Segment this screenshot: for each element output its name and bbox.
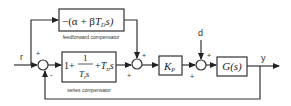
r-label: r [20, 52, 23, 62]
series-one-plus: 1+ [64, 60, 75, 71]
summing-junction-3 [196, 60, 206, 70]
sum3-plus-sign-bottom: + [190, 73, 194, 80]
summing-junction-1 [38, 60, 48, 70]
series-derivative-term: +TDs [95, 60, 114, 72]
gain-expression: KP [163, 60, 175, 73]
series-numerator: 1 [83, 53, 88, 63]
control-block-diagram: r d y + - + + + + −(α + βTDs) feedforwar… [0, 0, 291, 106]
summing-junction-2 [132, 59, 142, 69]
sum2-plus-sign-bottom: + [127, 72, 131, 79]
sum3-plus-sign-top: + [207, 52, 211, 59]
series-label: series compensator [67, 87, 111, 93]
feedforward-label: feedforward compensator [63, 34, 120, 40]
feedforward-expression: −(α + βTDs) [62, 15, 114, 28]
d-label: d [198, 28, 203, 38]
feedforward-branch-line [31, 20, 58, 65]
series-denominator: TIs [79, 69, 90, 80]
diagram-canvas: r d y + - + + + + −(α + βTDs) feedforwar… [0, 0, 291, 106]
sum2-plus-sign-top: + [142, 52, 146, 59]
plant-expression: G(s) [222, 60, 242, 73]
sum1-plus-sign: + [36, 50, 40, 57]
y-label: y [261, 53, 266, 63]
feedforward-output-line [124, 20, 137, 58]
sum1-minus-sign: - [50, 70, 53, 79]
